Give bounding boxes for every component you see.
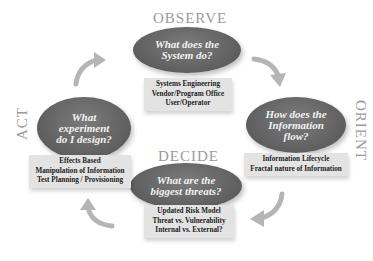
- decide-item: Internal vs. External?: [148, 226, 230, 236]
- orient-question-ellipse: How does the Information flow?: [246, 97, 346, 153]
- curved-arrow-icon-orient-to-decide: [248, 190, 288, 230]
- act-items-box: Effects Based Manipulation of Informatio…: [29, 155, 131, 188]
- observe-item: Vendor/Program Office: [148, 90, 228, 100]
- orient-items-box: Information Lifecycle Fractal nature of …: [244, 153, 348, 176]
- phase-label-orient: ORIENT: [352, 100, 369, 161]
- decide-items-box: Updated Risk Model Threat vs. Vulnerabil…: [144, 205, 234, 238]
- act-item: Test Planning / Provisioning: [33, 176, 127, 186]
- curved-arrow-icon-decide-to-act: [78, 196, 118, 236]
- observe-question-line: System do?: [149, 50, 225, 61]
- decide-question-line: biggest threats?: [144, 186, 227, 197]
- orient-item: Fractal nature of Information: [248, 165, 344, 175]
- phase-label-act: ACT: [14, 107, 31, 140]
- orient-question-line: Information: [259, 120, 332, 131]
- observe-item: User/Operator: [148, 99, 228, 109]
- orient-question-line: flow?: [259, 131, 332, 142]
- observe-item: Systems Engineering: [148, 80, 228, 90]
- decide-item: Threat vs. Vulnerability: [148, 217, 230, 227]
- orient-item: Information Lifecycle: [248, 155, 344, 165]
- act-question-line: do I design?: [50, 134, 118, 145]
- curved-arrow-icon-observe-to-orient: [250, 55, 290, 90]
- act-item: Manipulation of Information: [33, 167, 127, 177]
- act-question-ellipse: What experiment do I design?: [37, 97, 131, 159]
- curved-arrow-icon-act-to-observe: [70, 48, 110, 88]
- observe-question-ellipse: What does the System do?: [133, 27, 241, 73]
- decide-question-ellipse: What are the biggest threats?: [130, 163, 242, 209]
- act-item: Effects Based: [33, 157, 127, 167]
- orient-question-line: How does the: [259, 109, 332, 120]
- act-question-line: experiment: [50, 123, 118, 134]
- phase-label-observe: OBSERVE: [153, 10, 227, 27]
- observe-items-box: Systems Engineering Vendor/Program Offic…: [144, 78, 232, 111]
- act-question-line: What: [50, 112, 118, 123]
- decide-item: Updated Risk Model: [148, 207, 230, 217]
